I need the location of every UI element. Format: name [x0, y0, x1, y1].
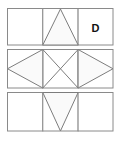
answer-label: D: [92, 22, 100, 34]
puzzle-figure: D: [0, 0, 122, 143]
bottom-strip: [8, 93, 114, 132]
cell-bottom-right: [78, 93, 113, 132]
cell-bottom-left: [8, 93, 43, 132]
cell-top-left: [8, 9, 43, 46]
middle-strip: [8, 50, 114, 89]
top-strip: D: [8, 9, 114, 46]
